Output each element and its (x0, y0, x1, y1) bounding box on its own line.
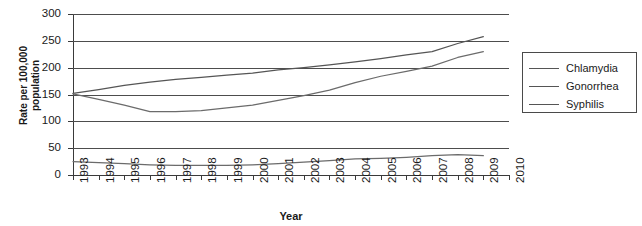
x-axis-tick (176, 175, 177, 180)
x-axis-tick (432, 175, 433, 180)
y-axis-tick-label: 0 (27, 168, 61, 180)
x-axis-tick (201, 175, 202, 180)
x-axis-tick (253, 175, 254, 180)
x-axis-tick-label: 2001 (283, 157, 295, 183)
x-axis-tick (509, 175, 510, 180)
x-axis-tick (355, 175, 356, 180)
x-axis-tick (73, 175, 74, 180)
x-axis-tick-label: 1995 (129, 157, 141, 183)
series-line-gonorrhea (73, 52, 483, 112)
x-axis-tick (329, 175, 330, 180)
y-axis-tick-label: 50 (27, 141, 61, 153)
series-line-chlamydia (73, 37, 483, 94)
y-axis-tick-label: 250 (27, 34, 61, 46)
x-axis-tick-label: 2002 (309, 157, 321, 183)
legend-item-chlamydia[interactable]: Chlamydia (523, 59, 636, 77)
x-axis-tick-label: 1998 (206, 157, 218, 183)
y-axis-tick-label: 200 (27, 61, 61, 73)
y-axis-tick-label: 150 (27, 88, 61, 100)
x-axis-tick (99, 175, 100, 180)
x-axis-tick-label: 1997 (181, 157, 193, 183)
x-axis-tick (458, 175, 459, 180)
x-axis-tick-label: 2000 (258, 157, 270, 183)
x-axis-tick-label: 2007 (437, 157, 449, 183)
x-axis-tick-label: 2004 (360, 157, 372, 183)
x-axis-tick-label: 1994 (104, 157, 116, 183)
x-axis-title: Year (73, 210, 509, 222)
x-axis-tick-label: 2009 (488, 157, 500, 183)
x-axis-tick (381, 175, 382, 180)
x-axis-tick-label: 2010 (514, 157, 526, 183)
legend-item-gonorrhea[interactable]: Gonorrhea (523, 77, 636, 95)
x-axis-tick (227, 175, 228, 180)
plot-area: Year (73, 14, 509, 175)
x-axis-tick (406, 175, 407, 180)
legend-item-label: Chlamydia (566, 62, 618, 74)
x-axis-tick-label: 1999 (232, 157, 244, 183)
chart-figure: Rate per 100,000 population Year 0501001… (0, 0, 642, 226)
x-axis-tick-label: 2006 (411, 157, 423, 183)
x-axis-tick-label: 2005 (386, 157, 398, 183)
x-axis-tick (483, 175, 484, 180)
x-axis-tick-label: 2008 (463, 157, 475, 183)
legend-line-icon (529, 68, 559, 69)
y-axis-tick-label: 100 (27, 114, 61, 126)
x-axis-tick (278, 175, 279, 180)
legend-line-icon (529, 86, 559, 87)
data-series-group (73, 14, 509, 175)
legend-item-label: Gonorrhea (566, 80, 619, 92)
x-axis-tick-label: 1993 (78, 157, 90, 183)
legend-line-icon (529, 104, 559, 105)
legend-item-label: Syphilis (566, 98, 604, 110)
x-axis-tick-label: 1996 (155, 157, 167, 183)
x-axis-tick (150, 175, 151, 180)
legend-item-syphilis[interactable]: Syphilis (523, 95, 636, 113)
x-axis-tick (304, 175, 305, 180)
x-axis-tick (124, 175, 125, 180)
y-axis-tick-label: 300 (27, 7, 61, 19)
x-axis-tick-label: 2003 (334, 157, 346, 183)
legend-box: Chlamydia Gonorrhea Syphilis (522, 52, 637, 113)
